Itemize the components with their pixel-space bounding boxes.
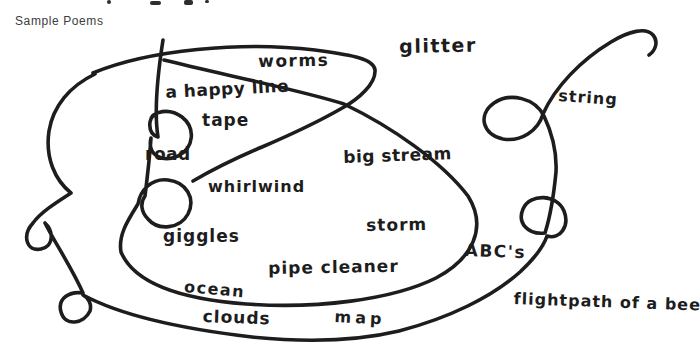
doodle-word-giggles: giggles bbox=[163, 228, 240, 245]
doodle-word-whirlwind: whirlwind bbox=[208, 179, 305, 195]
doodle-word-tape: tape bbox=[202, 112, 249, 129]
doodle-word-abcs: ABC's bbox=[464, 242, 526, 261]
doodle-word-pipe-cleaner: pipe cleaner bbox=[268, 258, 399, 277]
doodle-word-string: string bbox=[558, 88, 618, 108]
doodle-word-worms: worms bbox=[258, 52, 329, 70]
doodle-word-big-stream: big stream bbox=[343, 145, 452, 166]
doodle-word-map: map bbox=[334, 309, 386, 328]
doodle-word-storm: storm bbox=[366, 216, 427, 234]
doodle-word-glitter: glitter bbox=[399, 36, 477, 56]
doodle-word-road: road bbox=[145, 146, 191, 163]
scanned-document-page: Sample Poems worms glitter a happy line … bbox=[0, 0, 700, 358]
doodle-word-clouds: clouds bbox=[202, 308, 271, 327]
